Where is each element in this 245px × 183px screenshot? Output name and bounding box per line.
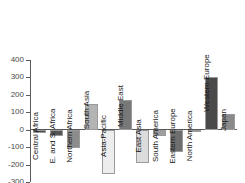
bar-category-label: South Asia xyxy=(83,91,91,129)
bar-chart: 4003002001000-100-200-300 Central Africa… xyxy=(0,0,245,183)
bar-category-label: East Asia xyxy=(135,119,143,152)
bar-group[interactable]: Asia-Pacific xyxy=(100,58,117,182)
bar-group[interactable]: Japan xyxy=(220,58,237,182)
y-tick-label: -100 xyxy=(8,143,24,151)
y-tick-mark xyxy=(26,77,30,78)
bar-group[interactable]: Western Europe xyxy=(203,58,220,182)
bar-category-label: Western Europe xyxy=(203,54,211,112)
bar-group[interactable]: Central Africa xyxy=(31,58,48,182)
y-tick-mark xyxy=(26,95,30,96)
bar-category-label: Northern Africa xyxy=(66,109,74,162)
plot-area: 4003002001000-100-200-300 Central Africa… xyxy=(30,58,242,182)
y-tick-label: 200 xyxy=(11,91,24,99)
bar-group[interactable]: Northern Africa xyxy=(65,58,82,182)
bar-category-label: North America xyxy=(186,110,194,161)
y-tick-mark xyxy=(26,182,30,183)
bars-layer: Central AfricaE. and S. AfricaNorthern A… xyxy=(31,58,237,182)
y-tick-label: -200 xyxy=(8,161,24,169)
y-tick-mark xyxy=(26,147,30,148)
y-tick-label: 400 xyxy=(11,56,24,64)
bar-group[interactable]: Eastern Europe xyxy=(168,58,185,182)
bar-group[interactable]: E. and S. Africa xyxy=(48,58,65,182)
y-tick-label: 300 xyxy=(11,73,24,81)
bar-category-label: Eastern Europe xyxy=(169,108,177,164)
bar-category-label: Central Africa xyxy=(32,112,40,160)
bar-group[interactable]: Middle East xyxy=(117,58,134,182)
y-tick-mark xyxy=(26,165,30,166)
y-tick-label: 0 xyxy=(20,126,24,134)
bar-category-label: E. and S. Africa xyxy=(49,108,57,163)
bar-group[interactable]: South America xyxy=(151,58,168,182)
bar-category-label: South America xyxy=(152,110,160,162)
y-tick-mark xyxy=(26,60,30,61)
bar-group[interactable]: North America xyxy=(186,58,203,182)
y-tick-mark xyxy=(26,112,30,113)
y-tick-label: -300 xyxy=(8,178,24,183)
bar-category-label: Japan xyxy=(220,109,228,131)
bar-category-label: Middle East xyxy=(117,86,125,128)
bar-group[interactable]: East Asia xyxy=(134,58,151,182)
bar-category-label: Asia-Pacific xyxy=(100,115,108,157)
bar-group[interactable]: South Asia xyxy=(83,58,100,182)
y-tick-mark xyxy=(26,130,30,131)
y-tick-label: 100 xyxy=(11,108,24,116)
